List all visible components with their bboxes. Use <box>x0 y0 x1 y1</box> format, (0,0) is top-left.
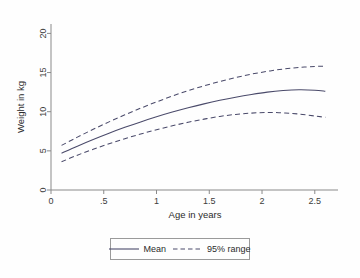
y-tick-label: 20 <box>38 28 48 38</box>
x-tick-label: 1.5 <box>203 196 216 206</box>
series-line-range-1 <box>62 66 326 145</box>
y-tick-label: 15 <box>38 68 48 78</box>
x-tick-label: 0 <box>48 196 53 206</box>
series-line-mean <box>62 90 326 153</box>
plot-area: 05101520 0.511.522.5 Weight in kg Age in… <box>0 0 360 278</box>
legend-label-range: 95% range <box>207 244 251 254</box>
chart-figure: 05101520 0.511.522.5 Weight in kg Age in… <box>0 0 360 278</box>
y-tick-label: 5 <box>38 148 48 153</box>
series-group <box>62 66 326 162</box>
x-tick-label: 2.5 <box>309 196 322 206</box>
x-axis-title: Age in years <box>169 209 222 220</box>
axes-group <box>51 24 338 190</box>
series-line-range-2 <box>62 112 326 161</box>
legend-swatch-solid <box>109 245 139 253</box>
legend-item-mean: Mean <box>109 244 166 254</box>
x-tick-label: .5 <box>100 196 108 206</box>
y-ticks-group: 05101520 <box>38 28 51 192</box>
chart-svg: 05101520 0.511.522.5 Weight in kg Age in… <box>0 0 360 278</box>
y-tick-label: 10 <box>38 107 48 117</box>
x-ticks-group: 0.511.522.5 <box>48 190 321 206</box>
legend-swatch-dashed <box>173 245 203 253</box>
x-tick-label: 1 <box>154 196 159 206</box>
legend-item-range: 95% range <box>173 244 251 254</box>
chart-legend: Mean 95% range <box>110 238 250 260</box>
x-tick-label: 2 <box>260 196 265 206</box>
legend-label-mean: Mean <box>143 244 166 254</box>
y-axis-title: Weight in kg <box>15 81 26 133</box>
y-tick-label: 0 <box>38 187 48 192</box>
